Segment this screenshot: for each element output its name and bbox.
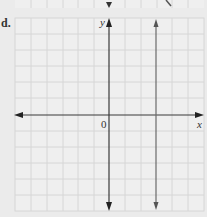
x-axis-label: x	[197, 118, 202, 130]
origin-label: 0	[101, 118, 107, 130]
coordinate-grid	[0, 0, 207, 217]
y-axis-label: y	[100, 16, 105, 28]
graph-problem: d. y x 0	[0, 0, 207, 217]
problem-label: d.	[1, 16, 11, 31]
